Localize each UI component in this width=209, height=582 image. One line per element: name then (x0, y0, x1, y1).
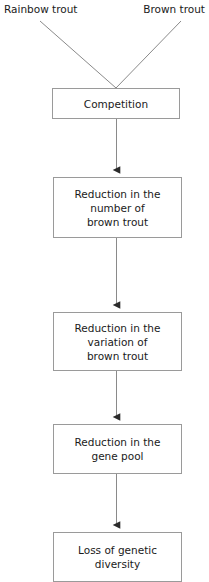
node-loss-of-genetic-diversity-label: Loss of genetic diversity (74, 543, 161, 571)
source-label-rainbow-trout: Rainbow trout (4, 3, 78, 16)
source-label-brown-trout: Brown trout (143, 3, 205, 16)
node-reduction-in-gene-pool-label: Reduction in the gene pool (71, 435, 165, 463)
node-competition: Competition (52, 88, 180, 119)
edge-brown-trout-to-competition (116, 21, 181, 88)
node-competition-label: Competition (80, 97, 152, 111)
node-reduction-in-number-of-brown-trout: Reduction in the number of brown trout (53, 177, 182, 238)
node-reduction-in-gene-pool: Reduction in the gene pool (53, 424, 182, 474)
node-reduction-in-variation-of-brown-trout: Reduction in the variation of brown trou… (53, 312, 182, 371)
node-loss-of-genetic-diversity: Loss of genetic diversity (53, 532, 182, 582)
node-reduction-in-number-of-brown-trout-label: Reduction in the number of brown trout (71, 187, 165, 229)
node-reduction-in-variation-of-brown-trout-label: Reduction in the variation of brown trou… (71, 321, 165, 363)
edge-rainbow-trout-to-competition (40, 21, 116, 88)
